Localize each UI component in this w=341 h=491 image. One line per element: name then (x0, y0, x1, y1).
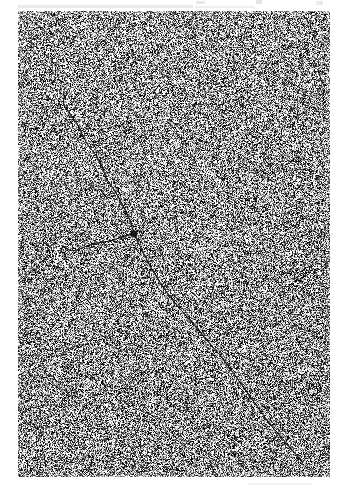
top-speck-c (316, 1, 323, 5)
top-speck-a (196, 1, 205, 4)
top-smudge-mid (195, 6, 255, 8)
page-root (0, 0, 341, 491)
top-speck-b (256, 0, 262, 4)
micrograph-canvas (18, 11, 330, 477)
bottom-smudge (248, 483, 312, 485)
electron-micrograph-plate (18, 11, 330, 477)
top-smudge-left (18, 5, 193, 8)
